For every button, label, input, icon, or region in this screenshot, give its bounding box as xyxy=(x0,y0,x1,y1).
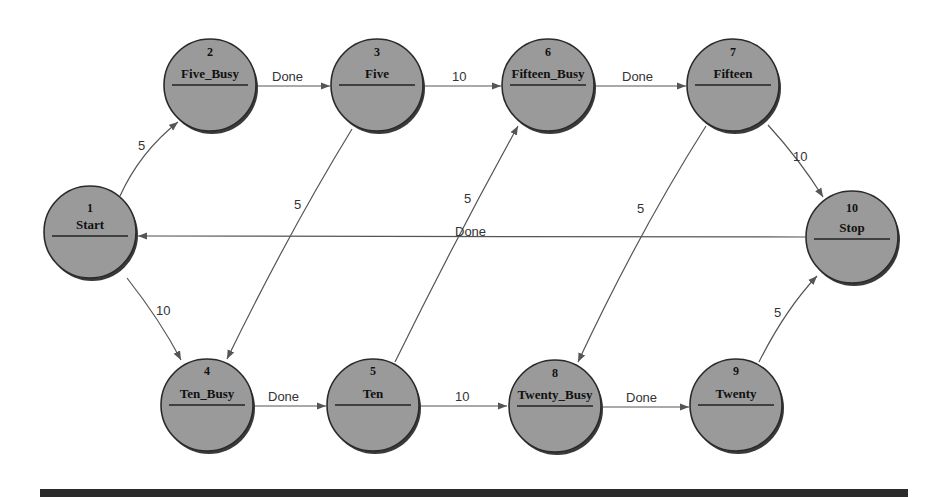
node-fifteen-busy[interactable]: 6 Fifteen_Busy xyxy=(502,39,596,134)
node-id: 2 xyxy=(207,45,213,59)
edge-label: 5 xyxy=(464,191,471,206)
edge-label: Done xyxy=(268,389,299,404)
node-five[interactable]: 3 Five xyxy=(331,39,425,134)
edge-label: 5 xyxy=(637,201,644,216)
edge-8-to-9[interactable]: Done xyxy=(603,390,689,407)
edge-label: 10 xyxy=(455,389,469,404)
node-ten-busy[interactable]: 4 Ten_Busy xyxy=(161,359,255,454)
node-start[interactable]: 1 Start xyxy=(44,186,138,281)
node-id: 7 xyxy=(730,45,736,59)
edge-6-to-7[interactable]: Done xyxy=(595,69,686,86)
edge-4-to-5[interactable]: Done xyxy=(254,389,326,406)
node-name: Ten_Busy xyxy=(180,386,235,401)
node-id: 10 xyxy=(846,201,858,215)
node-twenty-busy[interactable]: 8 Twenty_Busy xyxy=(509,360,603,455)
edge-7-to-8[interactable]: 5 xyxy=(578,126,706,362)
node-five-busy[interactable]: 2 Five_Busy xyxy=(164,39,258,134)
edge-9-to-10[interactable]: 5 xyxy=(759,276,817,362)
edge-1-to-2[interactable]: 5 xyxy=(120,122,178,196)
edge-label: 5 xyxy=(774,305,781,320)
edge-5-to-6[interactable]: 5 xyxy=(395,126,518,362)
edge-label: Done xyxy=(455,224,486,239)
node-name: Fifteen_Busy xyxy=(512,66,585,81)
node-id: 4 xyxy=(204,364,210,378)
node-name: Five xyxy=(365,66,389,81)
node-name: Five_Busy xyxy=(181,66,239,81)
bottom-divider-bar xyxy=(40,489,908,497)
nodes: 1 Start 2 Five_Busy 3 Five 6 Fifteen_Bus… xyxy=(44,39,900,455)
edge-2-to-3[interactable]: Done xyxy=(256,69,330,86)
edge-label: 10 xyxy=(793,149,807,164)
node-name: Fifteen xyxy=(714,66,754,81)
node-name: Ten xyxy=(363,386,384,401)
node-name: Stop xyxy=(839,220,864,235)
node-ten[interactable]: 5 Ten xyxy=(327,359,421,454)
node-id: 8 xyxy=(552,366,558,380)
edge-5-to-8[interactable]: 10 xyxy=(420,389,507,406)
edge-3-to-6[interactable]: 10 xyxy=(423,69,501,86)
node-fifteen[interactable]: 7 Fifteen xyxy=(687,39,781,134)
state-diagram: 5 10 Done 10 5 Done 10 xyxy=(0,0,938,497)
edge-label: 5 xyxy=(138,138,145,153)
edge-label: Done xyxy=(272,69,303,84)
edge-3-to-4[interactable]: 5 xyxy=(227,129,352,359)
edge-7-to-10[interactable]: 10 xyxy=(768,125,823,197)
node-id: 1 xyxy=(87,201,93,215)
node-id: 5 xyxy=(370,364,376,378)
node-id: 6 xyxy=(545,45,551,59)
node-id: 3 xyxy=(374,45,380,59)
node-twenty[interactable]: 9 Twenty xyxy=(690,359,784,454)
edge-label: 10 xyxy=(156,303,170,318)
edge-label: Done xyxy=(626,390,657,405)
node-name: Twenty_Busy xyxy=(518,387,593,402)
node-id: 9 xyxy=(733,364,739,378)
edge-label: 10 xyxy=(452,69,466,84)
node-stop[interactable]: 10 Stop xyxy=(806,191,900,286)
node-name: Start xyxy=(76,217,105,232)
edge-label: Done xyxy=(622,69,653,84)
edge-1-to-4[interactable]: 10 xyxy=(127,278,181,360)
edge-label: 5 xyxy=(294,197,301,212)
node-name: Twenty xyxy=(716,386,757,401)
edge-10-to-1[interactable]: Done xyxy=(138,224,805,239)
